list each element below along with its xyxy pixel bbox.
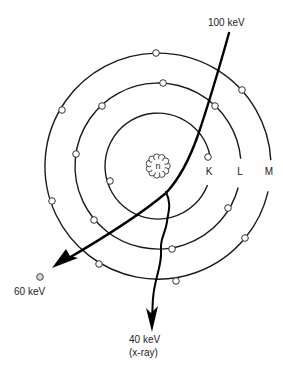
- electron-l-shell: [99, 103, 106, 110]
- electron-m-shell: [153, 50, 160, 57]
- electron-k-shell: [107, 178, 114, 185]
- electron-l-shell: [225, 205, 232, 212]
- electron-l-shell: [91, 217, 98, 224]
- shell-label-k: K: [206, 166, 213, 177]
- xray-type-label: (x-ray): [129, 347, 158, 358]
- electron-l-shell: [212, 103, 219, 110]
- incident-particle-path: [62, 33, 229, 262]
- electron-m-shell: [96, 261, 103, 268]
- electron-m-shell: [173, 278, 180, 285]
- nucleus-label: n: [155, 161, 160, 171]
- electron-m-shell: [239, 87, 246, 94]
- electron-l-shell: [73, 151, 80, 158]
- shell-label-l: L: [237, 166, 243, 177]
- electron-k-shell: [205, 154, 212, 161]
- atom-diagram: n K L M 100 keV 60 keV 40 keV (x-ray): [0, 0, 283, 368]
- electron-m-shell: [242, 235, 249, 242]
- ejected-electron: [37, 274, 44, 281]
- xray-path: [152, 192, 169, 318]
- incident-energy-label: 100 keV: [208, 17, 245, 28]
- shell-label-m: M: [265, 166, 273, 177]
- electron-m-shell: [49, 198, 56, 205]
- electron-l-shell: [160, 80, 167, 87]
- xray-energy-label: 40 keV: [129, 334, 160, 345]
- electron-l-shell: [169, 246, 176, 253]
- electron-m-shell: [59, 107, 66, 114]
- scattered-arrowhead: [52, 249, 78, 268]
- scattered-energy-label: 60 keV: [14, 286, 45, 297]
